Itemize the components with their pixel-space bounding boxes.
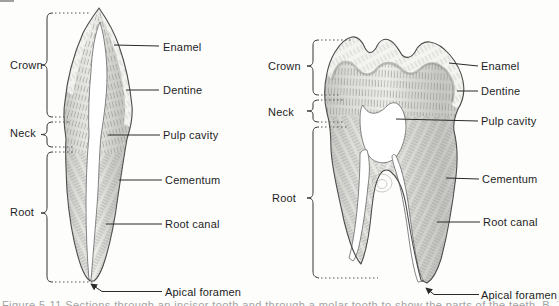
left-crown-label: Crown bbox=[10, 59, 43, 71]
right-enamel-label: Enamel bbox=[481, 60, 520, 72]
right-crown-label: Crown bbox=[268, 60, 301, 72]
right-tooth-drawing bbox=[318, 36, 472, 288]
right-root-canal-label: Root canal bbox=[483, 216, 538, 228]
left-neck-brace bbox=[41, 122, 53, 147]
right-root-label: Root bbox=[272, 192, 296, 204]
left-root-label: Root bbox=[10, 206, 34, 218]
right-pulp-cavity-label: Pulp cavity bbox=[481, 115, 536, 127]
right-crown-brace bbox=[307, 40, 319, 95]
left-tooth-drawing bbox=[55, 5, 139, 287]
right-dentine-label: Dentine bbox=[481, 85, 520, 97]
left-apical-foramen-label: Apical foramen bbox=[165, 286, 241, 298]
left-cementum-label: Cementum bbox=[165, 174, 220, 186]
left-pulp-cavity-label: Pulp cavity bbox=[163, 129, 218, 141]
left-root-canal-label: Root canal bbox=[165, 218, 220, 230]
figure-caption-clipped: Figure 5-11 Sections through an incisor … bbox=[2, 299, 558, 306]
left-crown-brace bbox=[41, 13, 53, 117]
left-enamel-label: Enamel bbox=[163, 41, 202, 53]
tooth-anatomy-figure: Crown Neck Root Enamel Dentine Pulp cavi… bbox=[0, 0, 559, 306]
right-cementum-label: Cementum bbox=[482, 173, 537, 185]
right-root-brace bbox=[307, 127, 319, 278]
left-root-brace bbox=[41, 152, 53, 282]
left-neck-label: Neck bbox=[10, 127, 36, 139]
scan-artifact-mark bbox=[0, 0, 14, 2]
right-neck-brace bbox=[307, 100, 319, 122]
right-neck-label: Neck bbox=[268, 106, 294, 118]
tooth-illustration-artwork bbox=[0, 0, 559, 306]
left-dentine-label: Dentine bbox=[163, 84, 202, 96]
